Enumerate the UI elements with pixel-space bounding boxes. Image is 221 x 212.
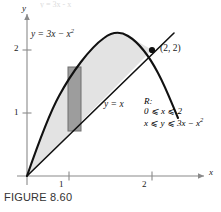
intersection-point-label: (2, 2)	[160, 44, 181, 54]
region-constraint-y-text: x ⩽ y ⩽ 3x − x	[144, 118, 200, 128]
line-equation-label: y = x	[104, 100, 124, 110]
y-axis-arrowhead	[24, 14, 30, 20]
y-tick-label-1: 1	[14, 108, 19, 117]
y-tick-label-2: 2	[14, 44, 19, 53]
x-axis-label: x	[209, 168, 213, 177]
region-constraint-y: x ⩽ y ⩽ 3x − x2	[144, 116, 203, 128]
region-title: R:	[144, 96, 203, 106]
x-axis-arrowhead	[198, 173, 204, 179]
intersection-point-dot	[149, 47, 155, 53]
curve-equation-exponent: 2	[71, 27, 74, 34]
region-description: R: 0 ⩽ x ⩽ 2 x ⩽ y ⩽ 3x − x2	[144, 96, 203, 128]
curve-equation-text: y = 3x − x	[31, 29, 71, 39]
region-constraint-y-exponent: 2	[200, 116, 203, 123]
region-constraint-x: 0 ⩽ x ⩽ 2	[144, 106, 203, 116]
x-tick-label-1: 1	[59, 180, 64, 189]
shaded-region-R	[27, 33, 152, 176]
figure-container: y = 3x - x y x 1 2 1 2	[0, 0, 221, 212]
x-tick-label-2: 2	[142, 180, 147, 189]
y-axis-label: y	[22, 4, 26, 13]
figure-caption: FIGURE 8.60	[4, 191, 72, 203]
curve-equation-label: y = 3x − x2	[31, 28, 74, 40]
